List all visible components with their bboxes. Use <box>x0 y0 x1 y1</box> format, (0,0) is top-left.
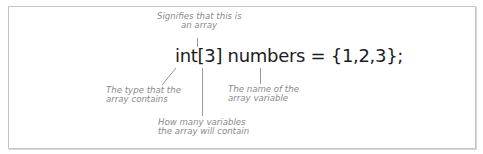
annotation-variable-name: The name of the array variable <box>228 85 299 103</box>
annotation-array-marker-line-2: an array <box>157 21 241 30</box>
annotation-variable-name-line-2: array variable <box>228 94 299 103</box>
annotation-element-type-line-2: array contains <box>106 95 181 104</box>
code-statement: int[3] numbers = {1,2,3}; <box>175 45 403 67</box>
annotation-element-count-line-2: the array will contain <box>158 127 249 136</box>
annotation-array-marker: Signifies that this is an array <box>157 12 241 30</box>
annotation-element-count: How many variables the array will contai… <box>158 118 249 136</box>
annotation-element-type: The type that the array contains <box>106 86 181 104</box>
